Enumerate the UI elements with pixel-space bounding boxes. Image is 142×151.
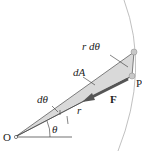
r-pointer xyxy=(67,116,68,124)
theta-label: θ xyxy=(52,123,58,135)
O-label: O xyxy=(3,131,11,143)
origin-point xyxy=(14,135,17,138)
F-label: F xyxy=(110,93,117,105)
dtheta-label: dθ xyxy=(37,93,49,105)
r-label: r xyxy=(77,104,82,116)
point-p xyxy=(129,73,135,79)
rdtheta-label: r dθ xyxy=(82,40,101,52)
P-label: P xyxy=(136,77,142,89)
area-sweep-diagram: r dθ dA dθ F r θ O P xyxy=(0,0,142,151)
theta-arc xyxy=(47,121,50,137)
dA-label: dA xyxy=(73,66,86,78)
point-upper xyxy=(131,49,137,55)
